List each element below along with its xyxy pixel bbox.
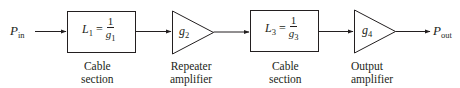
fraction-denominator: g3 <box>289 27 299 43</box>
output-power-symbol: P <box>433 23 441 38</box>
output-amplifier-gain: g4 <box>362 23 372 39</box>
equals-sign: = <box>96 22 103 37</box>
cable-section-1-formula: L1 = 1 g1 <box>82 15 115 44</box>
output-amplifier-triangle <box>355 10 396 53</box>
fraction-numerator: 1 <box>107 15 115 28</box>
formula-lhs: L1 <box>82 22 93 38</box>
cascade-block-diagram: Pin L1 = 1 g1 g2 L3 = 1 g3 g4 Pout Cable… <box>0 0 460 88</box>
output-power-label: Pout <box>433 23 452 40</box>
caption-repeater-amplifier: Repeater amplifier <box>170 60 212 86</box>
input-power-subscript: in <box>18 30 25 40</box>
fraction-numerator: 1 <box>290 14 298 27</box>
formula-lhs: L3 <box>265 21 276 37</box>
cable-section-3-formula: L3 = 1 g3 <box>265 14 298 43</box>
caption-output-amplifier: Output amplifier <box>351 60 393 86</box>
equals-sign: = <box>279 21 286 36</box>
fraction-denominator: g1 <box>106 28 116 44</box>
input-power-label: Pin <box>10 23 25 40</box>
caption-cable-section-1: Cable section <box>81 60 114 86</box>
output-power-subscript: out <box>441 30 452 40</box>
fraction: 1 g1 <box>106 15 116 44</box>
caption-cable-section-3: Cable section <box>269 60 302 86</box>
fraction: 1 g3 <box>289 14 299 43</box>
input-power-symbol: P <box>10 23 18 38</box>
repeater-amplifier-gain: g2 <box>179 24 189 40</box>
